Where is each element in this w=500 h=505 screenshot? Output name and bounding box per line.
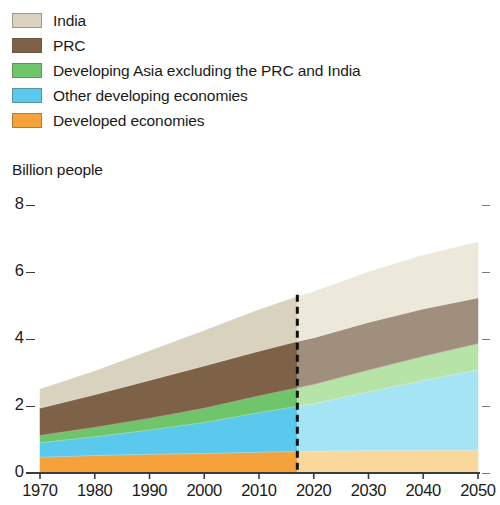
y-axis-tick-label: 4 — [2, 328, 24, 347]
y-axis-tick-mark — [26, 339, 35, 340]
y-axis-tick-mark — [26, 272, 35, 273]
area-band-0-forecast — [297, 450, 478, 473]
x-axis-tick-label: 2010 — [236, 481, 282, 500]
y-axis-tick-mark-right — [482, 473, 490, 474]
y-axis-tick-mark-right — [482, 339, 490, 340]
x-axis-tick-label: 1970 — [17, 481, 63, 500]
y-axis-tick-mark — [26, 205, 35, 206]
y-axis-tick-label: 6 — [2, 261, 24, 280]
y-axis-tick-mark-right — [482, 406, 490, 407]
x-axis-tick-label: 2050 — [455, 481, 500, 500]
y-axis-tick-mark — [26, 406, 35, 407]
y-axis-tick-mark — [26, 473, 35, 474]
y-axis-tick-label: 2 — [2, 395, 24, 414]
y-axis-tick-mark-right — [482, 272, 490, 273]
y-axis-tick-label: 8 — [2, 194, 24, 213]
x-axis-tick-label: 2040 — [400, 481, 446, 500]
x-axis-tick-label: 2030 — [346, 481, 392, 500]
x-axis-tick-label: 2020 — [291, 481, 337, 500]
x-axis-tick-label: 1980 — [72, 481, 118, 500]
x-axis-tick-label: 1990 — [127, 481, 173, 500]
x-axis-tick-label: 2000 — [181, 481, 227, 500]
y-axis-tick-label: 0 — [2, 462, 24, 481]
y-axis-tick-mark-right — [482, 205, 490, 206]
